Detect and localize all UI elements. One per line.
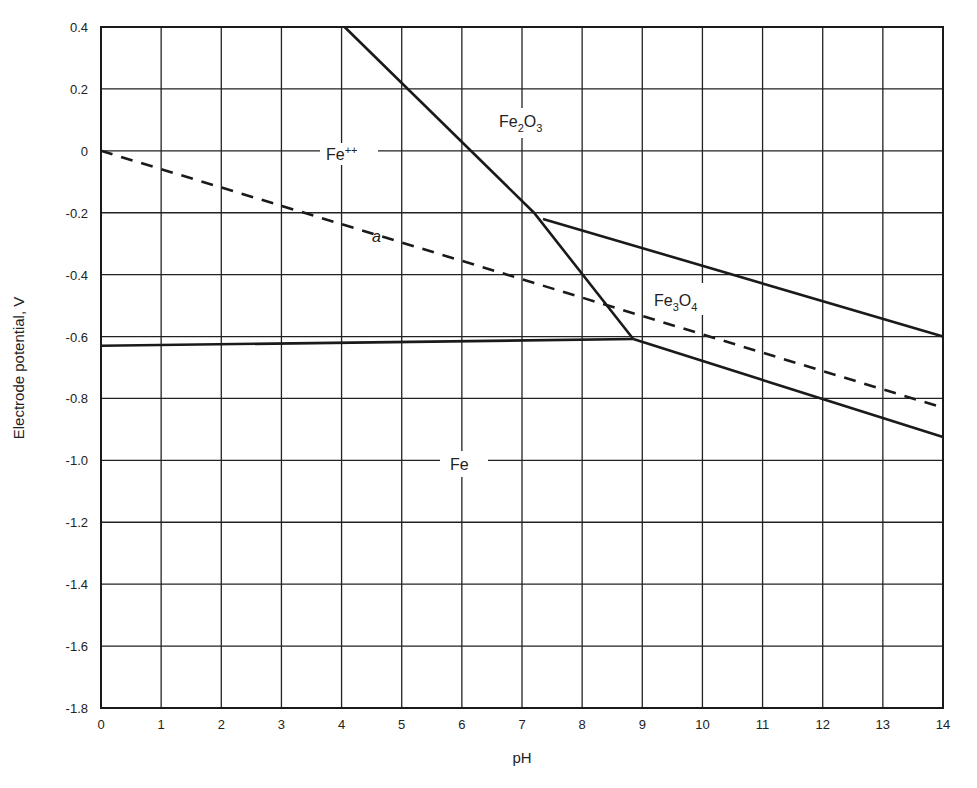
y-tick-label: 0 (81, 144, 88, 159)
y-tick-label: -0.8 (66, 391, 88, 406)
x-tick-label: 12 (815, 717, 829, 732)
x-tick-label: 6 (458, 717, 465, 732)
x-tick-label: 5 (398, 717, 405, 732)
series-line (345, 27, 634, 339)
y-tick-label: -1.4 (66, 577, 88, 592)
x-tick-label: 4 (338, 717, 345, 732)
x-tick-label: 13 (876, 717, 890, 732)
y-tick-label: 0.2 (70, 82, 88, 97)
x-tick-label: 1 (158, 717, 165, 732)
x-tick-label: 11 (756, 717, 770, 732)
y-tick-label: -0.2 (66, 206, 88, 221)
x-tick-label: 14 (936, 717, 950, 732)
series-line (633, 339, 943, 437)
label-fe: Fe (450, 456, 469, 473)
y-tick-label: -1.8 (66, 701, 88, 716)
y-tick-label: -0.4 (66, 268, 88, 283)
y-tick-label: -1.2 (66, 515, 88, 530)
y-tick-label: 0.4 (70, 20, 88, 35)
pourbaix-diagram: 0.40.20-0.2-0.4-0.6-0.8-1.0-1.2-1.4-1.6-… (0, 0, 977, 788)
x-axis-title: pH (512, 749, 531, 766)
y-axis-title: Electrode potential, V (10, 297, 27, 440)
y-tick-label: -1.6 (66, 639, 88, 654)
y-tick-label: -0.6 (66, 330, 88, 345)
x-tick-label: 2 (218, 717, 225, 732)
y-tick-label: -1.0 (66, 453, 88, 468)
label-a: a (372, 228, 381, 245)
x-tick-label: 3 (278, 717, 285, 732)
series-line (101, 339, 633, 346)
y-axis-ticks: 0.40.20-0.2-0.4-0.6-0.8-1.0-1.2-1.4-1.6-… (66, 20, 88, 716)
x-tick-label: 0 (97, 717, 104, 732)
x-tick-label: 8 (579, 717, 586, 732)
x-axis-ticks: 01234567891011121314 (97, 717, 950, 732)
x-tick-label: 10 (695, 717, 709, 732)
x-tick-label: 9 (639, 717, 646, 732)
x-tick-label: 7 (518, 717, 525, 732)
